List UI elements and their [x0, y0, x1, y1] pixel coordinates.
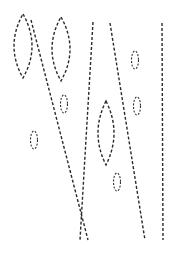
oval-5 [114, 173, 121, 191]
oval-3 [61, 95, 68, 113]
line-d [162, 23, 163, 240]
dashed-line-drawing [0, 0, 176, 254]
dashed-small-ovals [31, 51, 141, 191]
oval-1 [132, 51, 139, 69]
lens-1 [14, 14, 32, 78]
line-c [110, 23, 145, 240]
lens-2 [52, 17, 70, 81]
dashed-lens-shapes [14, 14, 114, 165]
oval-2 [134, 97, 141, 115]
oval-4 [31, 131, 38, 149]
dashed-lines [31, 20, 163, 240]
line-b [80, 22, 93, 240]
lens-3 [98, 101, 114, 165]
line-a [31, 20, 88, 240]
